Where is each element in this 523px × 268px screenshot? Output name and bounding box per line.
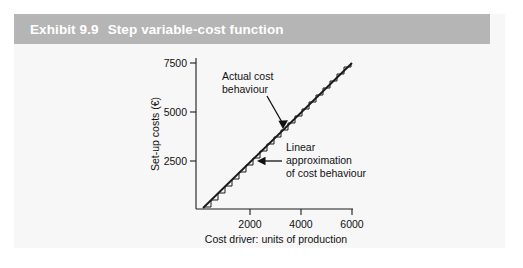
- linear-approximation-annotation-line2: approximation: [286, 154, 352, 166]
- exhibit-header-bar: Exhibit 9.9 Step variable-cost function: [14, 14, 490, 44]
- x-axis-title: Cost driver: units of production: [205, 233, 348, 245]
- exhibit-title-label: Step variable-cost function: [108, 22, 284, 37]
- exhibit-number-label: Exhibit 9.9: [30, 22, 99, 37]
- y-tick-label-5000: 5000: [164, 106, 188, 118]
- linear-approximation-annotation: Linear approximation of cost behaviour: [257, 141, 366, 179]
- x-tick-label-4000: 4000: [289, 218, 313, 230]
- chart-figure: 7500 5000 2500 2000 4000 6000 Cost drive…: [14, 44, 505, 248]
- actual-cost-annotation-line2: behaviour: [222, 83, 269, 95]
- y-tick-label-7500: 7500: [164, 57, 188, 69]
- linear-approximation-annotation-line3: of cost behaviour: [286, 167, 366, 179]
- linear-approximation-annotation-line1: Linear: [286, 141, 316, 153]
- actual-cost-annotation-arrow-shaft: [267, 96, 283, 124]
- y-axis-title: Set-up costs (€): [149, 97, 161, 171]
- actual-cost-annotation: Actual cost behaviour: [222, 70, 288, 129]
- actual-cost-annotation-line1: Actual cost: [222, 70, 273, 82]
- y-tick-label-2500: 2500: [164, 155, 188, 167]
- x-tick-label-2000: 2000: [238, 218, 262, 230]
- x-axis-ticks: [250, 209, 352, 215]
- chart-svg: 7500 5000 2500 2000 4000 6000 Cost drive…: [14, 44, 505, 248]
- y-axis-ticks: [190, 63, 196, 161]
- x-tick-label-6000: 6000: [340, 218, 364, 230]
